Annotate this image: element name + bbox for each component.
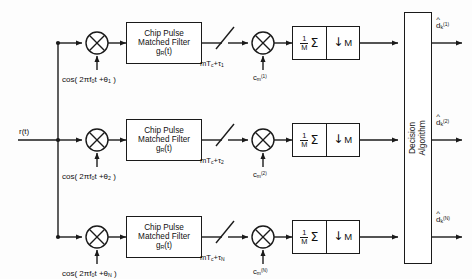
sigma-icon: Σ	[310, 133, 318, 147]
filter-label-line2: Matched Filter	[138, 135, 190, 144]
filter-label-line1: Chip Pulse	[144, 126, 184, 135]
decision-algorithm-block[interactable]: Decision Algorithm	[404, 12, 432, 264]
accumulator-branch-1: 1 M Σ	[293, 27, 327, 59]
sigma-icon: Σ	[310, 230, 318, 244]
carrier-label-branch-n: cos( 2πf0t +θN )	[62, 270, 117, 279]
one-over-m-fraction: 1 M	[300, 229, 308, 245]
one-over-m-fraction: 1 M	[300, 35, 308, 51]
decision-algorithm-label: Decision Algorithm	[408, 120, 428, 155]
filter-impulse-response-label: gR(t)	[156, 241, 172, 250]
code-label-branch-2: cm(2)	[253, 171, 267, 179]
filter-impulse-response-label: gR(t)	[156, 47, 172, 56]
downsampler-branch-2: ↓ M	[327, 124, 360, 156]
chip-pulse-matched-filter-branch-1[interactable]: Chip Pulse Matched Filter gR(t)	[126, 22, 202, 64]
filter-label-line2: Matched Filter	[138, 232, 190, 241]
output-label-branch-2: ^dk(2)	[436, 119, 449, 128]
carrier-label-branch-2: cos( 2πf0t +θ2 )	[62, 173, 116, 182]
output-label-branch-n: ^dk(N)	[436, 216, 450, 225]
down-arrow-icon: ↓	[333, 36, 343, 49]
code-label-branch-1: cm(1)	[253, 74, 267, 82]
accumulator-downsampler-branch-1[interactable]: 1 M Σ ↓ M	[292, 26, 360, 60]
d-hat-symbol: ^d	[436, 216, 440, 224]
d-hat-symbol: ^d	[436, 119, 440, 127]
hat-accent-icon: ^	[436, 113, 440, 121]
sampler-label-branch-n: mTc+τN	[200, 254, 225, 262]
down-arrow-icon: ↓	[333, 230, 343, 243]
downsample-factor-label: M	[344, 135, 352, 146]
accumulator-downsampler-branch-n[interactable]: 1 M Σ ↓ M	[292, 220, 360, 254]
output-label-branch-1: ^dk(1)	[436, 22, 449, 31]
filter-label-line2: Matched Filter	[138, 38, 190, 47]
filter-impulse-response-label: gR(t)	[156, 144, 172, 153]
block-diagram-canvas: Chip Pulse Matched Filter gR(t) 1 M Σ ↓ …	[0, 0, 472, 279]
accumulator-branch-2: 1 M Σ	[293, 124, 327, 156]
down-arrow-icon: ↓	[333, 133, 343, 146]
accumulator-downsampler-branch-2[interactable]: 1 M Σ ↓ M	[292, 123, 360, 157]
filter-label-line1: Chip Pulse	[144, 29, 184, 38]
input-signal-label: r(t)	[19, 128, 29, 136]
sampler-label-branch-2: mTc+τ2	[200, 157, 224, 165]
downsampler-branch-1: ↓ M	[327, 27, 360, 59]
downsample-factor-label: M	[344, 232, 352, 243]
chip-pulse-matched-filter-branch-2[interactable]: Chip Pulse Matched Filter gR(t)	[126, 119, 202, 161]
wiring-layer	[0, 0, 472, 279]
hat-accent-icon: ^	[436, 210, 440, 218]
downsample-factor-label: M	[344, 38, 352, 49]
code-label-branch-n: cm(N)	[253, 268, 268, 276]
sampler-label-branch-1: mTc+τ1	[200, 60, 224, 68]
hat-accent-icon: ^	[436, 16, 440, 24]
sigma-icon: Σ	[310, 36, 318, 50]
carrier-label-branch-1: cos( 2πf0t +θ1 )	[62, 76, 116, 85]
accumulator-branch-n: 1 M Σ	[293, 221, 327, 253]
d-hat-symbol: ^d	[436, 22, 440, 30]
one-over-m-fraction: 1 M	[300, 132, 308, 148]
decision-label-line2: Algorithm	[418, 120, 428, 155]
downsampler-branch-n: ↓ M	[327, 221, 360, 253]
filter-label-line1: Chip Pulse	[144, 223, 184, 232]
chip-pulse-matched-filter-branch-n[interactable]: Chip Pulse Matched Filter gR(t)	[126, 216, 202, 258]
